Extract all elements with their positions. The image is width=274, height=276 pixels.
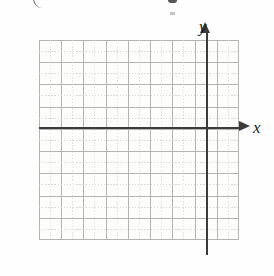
x-axis-label: x [253, 119, 261, 136]
grid-border [39, 40, 239, 240]
y-axis-label: y [199, 18, 207, 35]
x-axis-arrowhead-icon [239, 121, 250, 131]
x-axis-line [39, 127, 243, 129]
scan-artifact-parenthesis [32, 0, 41, 8]
plot-grid [39, 40, 239, 240]
coordinate-grid-figure: y x [0, 0, 274, 276]
scan-artifact-glyph [168, 0, 177, 3]
scan-artifact-speck [170, 12, 175, 15]
y-axis-line [206, 33, 208, 255]
